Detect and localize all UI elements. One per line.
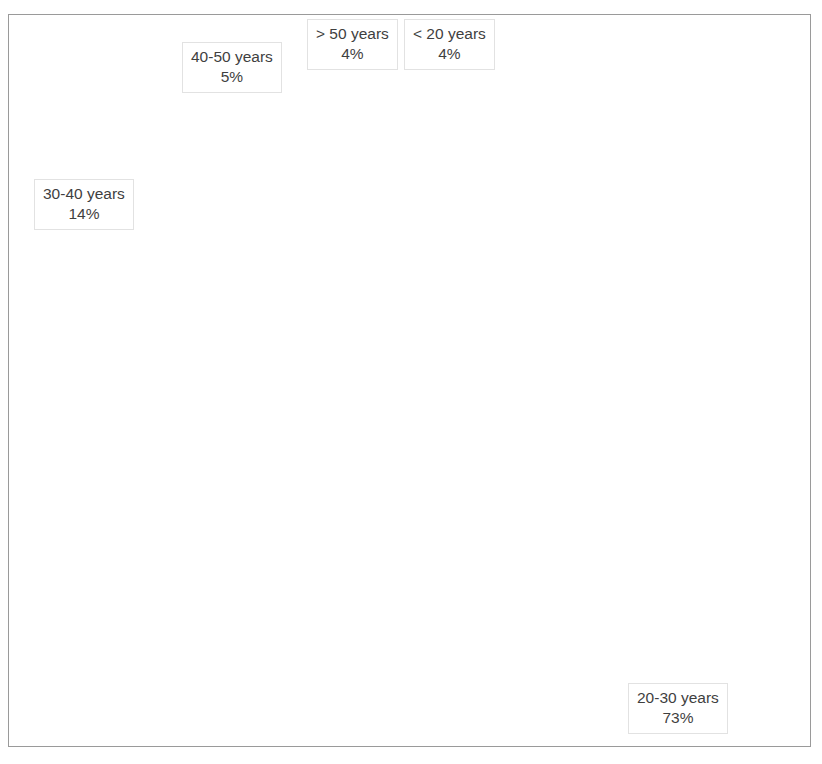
pie-label-40-50-years[interactable]: 40-50 years 5% <box>182 42 282 93</box>
pie-label-lt-20-years[interactable]: < 20 years 4% <box>404 19 495 70</box>
pie-label-lt-20-percent: 4% <box>413 44 486 64</box>
pie-label-20-30-years[interactable]: 20-30 years 73% <box>628 683 728 734</box>
pie-label-30-40-percent: 14% <box>43 204 125 224</box>
pie-label-40-50-percent: 5% <box>191 67 273 87</box>
chart-frame-border <box>8 14 811 747</box>
pie-label-30-40-years[interactable]: 30-40 years 14% <box>34 179 134 230</box>
pie-label-30-40-category: 30-40 years <box>43 184 125 204</box>
pie-label-20-30-percent: 73% <box>637 708 719 728</box>
pie-label-40-50-category: 40-50 years <box>191 47 273 67</box>
pie-label-gt-50-percent: 4% <box>316 44 389 64</box>
pie-label-lt-20-category: < 20 years <box>413 24 486 44</box>
pie-label-gt-50-category: > 50 years <box>316 24 389 44</box>
pie-label-gt-50-years[interactable]: > 50 years 4% <box>307 19 398 70</box>
pie-label-20-30-category: 20-30 years <box>637 688 719 708</box>
